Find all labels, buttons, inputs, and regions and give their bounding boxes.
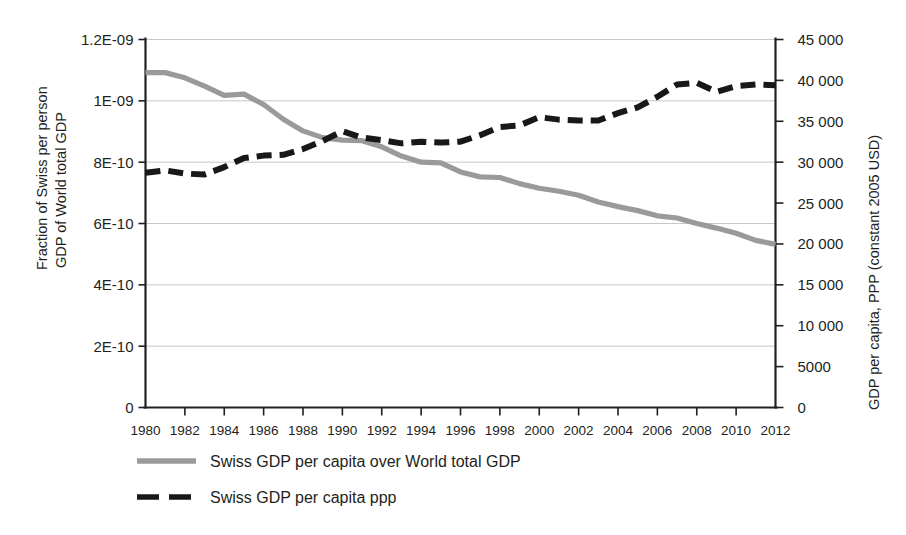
legend-label-1: Swiss GDP per capita ppp [210,489,397,506]
x-tick-label: 1996 [445,423,475,438]
x-tick-label: 2002 [564,423,594,438]
right-tick-label: 0 [798,399,806,416]
right-tick-label: 10 000 [798,317,844,334]
left-tick-label: 6E-10 [93,215,133,232]
x-tick-label: 2010 [721,423,751,438]
right-tick-label: 40 000 [798,72,844,89]
left-tick-label: 4E-10 [93,276,133,293]
x-tick-label: 2008 [682,423,712,438]
left-tick-label: 8E-10 [93,154,133,171]
left-tick-label: 1.2E-09 [81,31,134,48]
right-axis-title: GDP per capita, PPP (constant 2005 USD) [866,135,882,410]
x-tick-label: 1988 [288,423,318,438]
legend-label-0: Swiss GDP per capita over World total GD… [210,453,521,470]
right-tick-label: 45 000 [798,31,844,48]
x-tick-label: 1986 [249,423,279,438]
x-tick-label: 2000 [524,423,554,438]
x-tick-label: 1990 [327,423,357,438]
right-tick-label: 25 000 [798,195,844,212]
x-tick-label: 1998 [485,423,515,438]
right-tick-label: 5000 [798,358,831,375]
x-tick-label: 2012 [760,423,790,438]
x-tick-label: 1992 [367,423,397,438]
right-tick-label: 30 000 [798,154,844,171]
x-tick-label: 2004 [603,423,634,438]
right-tick-label: 20 000 [798,235,844,252]
left-tick-label: 1E-09 [93,92,133,109]
x-tick-label: 2006 [642,423,672,438]
right-tick-label: 15 000 [798,276,844,293]
right-tick-label: 35 000 [798,113,844,130]
left-axis-title-line2: GDP of World total GDP [53,112,69,268]
chart-figure: 02E-104E-106E-108E-101E-091.2E-09 050001… [0,0,906,535]
gdp-line-chart: 02E-104E-106E-108E-101E-091.2E-09 050001… [0,0,906,535]
left-tick-label: 2E-10 [93,338,133,355]
x-tick-label: 1994 [406,423,437,438]
x-tick-label: 1980 [130,423,160,438]
x-tick-label: 1984 [209,423,240,438]
x-tick-label: 1982 [170,423,200,438]
left-axis-title-line1: Fraction of Swiss per person [34,86,50,270]
left-tick-label: 0 [125,399,133,416]
